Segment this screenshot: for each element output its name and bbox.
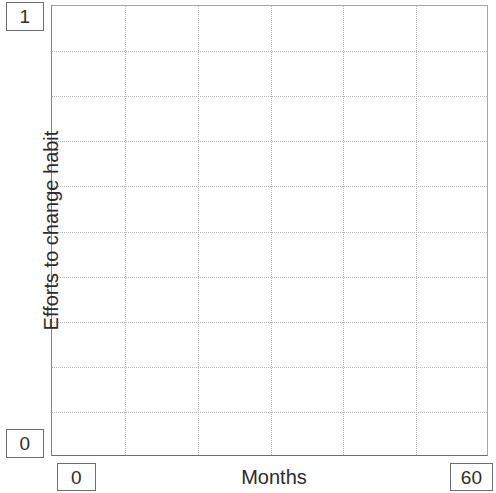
- gridline-horizontal: [52, 186, 487, 187]
- x-axis-title: Months: [100, 464, 448, 490]
- gridline-vertical: [271, 6, 272, 455]
- gridline-horizontal: [52, 367, 487, 368]
- gridline-vertical: [125, 6, 126, 455]
- plot-area: [51, 5, 488, 456]
- gridline-horizontal: [52, 277, 487, 278]
- y-axis-title: Efforts to change habit: [34, 5, 68, 456]
- gridline-horizontal: [52, 51, 487, 52]
- chart-container: 1 0 0 60 Months Efforts to change habit: [0, 0, 496, 493]
- x-axis-max-tick-label: 60: [450, 463, 493, 491]
- gridline-horizontal: [52, 412, 487, 413]
- gridline-horizontal: [52, 322, 487, 323]
- gridlines: [52, 6, 487, 455]
- x-axis-min-tick-label: 0: [57, 463, 96, 491]
- gridline-vertical: [343, 6, 344, 455]
- gridline-horizontal: [52, 232, 487, 233]
- gridline-horizontal: [52, 141, 487, 142]
- gridline-horizontal: [52, 96, 487, 97]
- gridline-vertical: [416, 6, 417, 455]
- gridline-vertical: [198, 6, 199, 455]
